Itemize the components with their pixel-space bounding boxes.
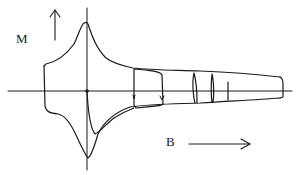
m-axis-label: M bbox=[16, 31, 28, 47]
upper-envelope bbox=[44, 22, 280, 77]
minor-loop-3 bbox=[211, 74, 213, 102]
minor-loop-1 bbox=[134, 69, 163, 108]
minor-loop-2 bbox=[193, 73, 197, 103]
inner-lower-curve bbox=[87, 91, 134, 134]
hysteresis-diagram: M B bbox=[0, 0, 300, 175]
envelope-end bbox=[280, 77, 283, 98]
b-axis-label: B bbox=[166, 134, 175, 150]
diagram-canvas bbox=[0, 0, 300, 175]
